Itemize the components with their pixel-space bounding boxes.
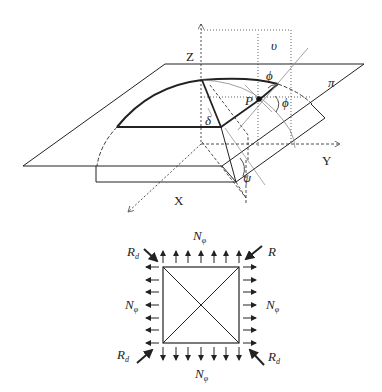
y-axis-label: Y: [322, 153, 332, 168]
point-p: [256, 96, 262, 102]
r-bottom-left-label: Rd: [116, 347, 130, 364]
phi-right-label: ϕ: [282, 95, 289, 110]
dome-dashed-left: [97, 127, 117, 166]
upsilon-label: υ: [271, 38, 277, 53]
r-top-right-label: R: [267, 244, 276, 259]
delta-label: δ: [205, 113, 212, 128]
plane-pi: [23, 64, 364, 166]
x-axis-label: X: [174, 193, 184, 208]
r-top-left-label: Rd: [126, 244, 140, 261]
phi-top-label: ϕ: [266, 68, 273, 83]
plane-pi-label: π: [328, 75, 335, 90]
x-axis: [128, 144, 201, 212]
shell-3d-diagram: Z Y X υ ϕ ϕ P π δ ψ: [23, 24, 364, 212]
n-bottom-label: Nφ: [194, 366, 209, 383]
figure-canvas: Z Y X υ ϕ ϕ P π δ ψ: [0, 0, 382, 392]
n-right-label: Nφ: [265, 297, 280, 314]
point-p-label: P: [244, 93, 253, 108]
r-bottom-right-label: Rd: [267, 349, 281, 366]
tangent-line: [238, 48, 308, 130]
z-axis-label: Z: [186, 49, 194, 64]
n-top-label: Nφ: [192, 228, 207, 245]
force-element-diagram: Nφ Nφ Nφ Nφ Rd R Rd Rd: [116, 228, 281, 383]
right-force-arrows: [243, 267, 256, 343]
bottom-force-arrows: [163, 347, 239, 360]
left-force-arrows: [146, 267, 159, 343]
top-force-arrows: [163, 251, 239, 263]
n-left-label: Nφ: [124, 297, 139, 314]
psi-label: ψ: [243, 170, 252, 185]
